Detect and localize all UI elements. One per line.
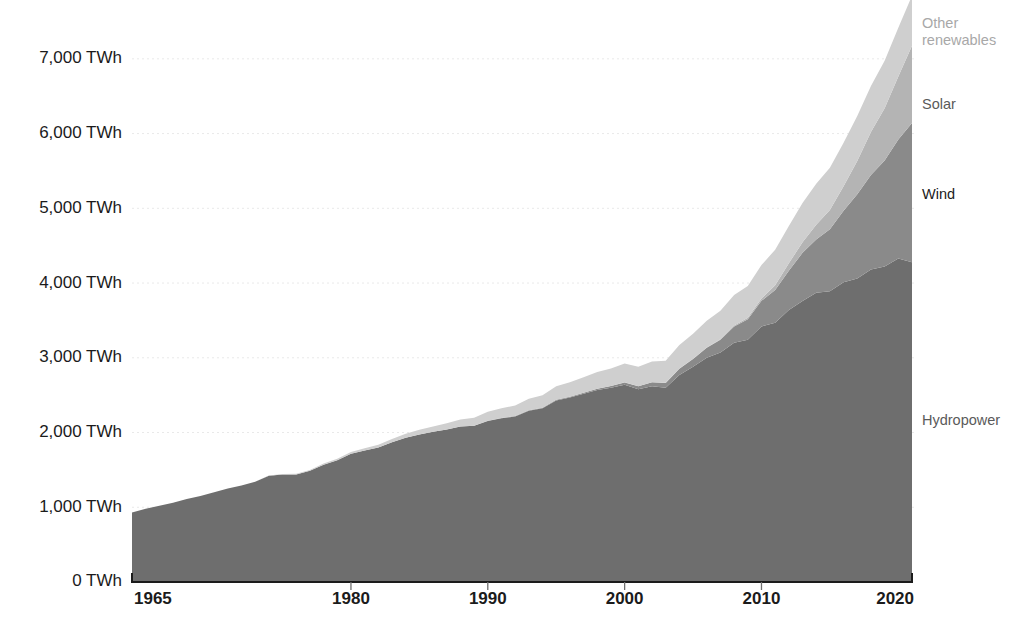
y-axis-tick-label: 4,000 TWh [39,273,122,292]
x-axis-tick-label: 1980 [332,589,370,608]
series-label-solar: Solar [922,96,956,112]
y-axis-tick-label: 0 TWh [72,571,122,590]
x-axis-tick-label: 2020 [876,589,914,608]
x-tick-marks-group [351,582,762,590]
series-label-other-renewables: Otherrenewables [922,15,996,48]
y-axis-tick-label: 7,000 TWh [39,48,122,67]
x-axis-tick-label: 2010 [743,589,781,608]
area-series-hydropower [132,258,912,582]
area-series-group [132,0,912,582]
y-axis-tick-label: 3,000 TWh [39,347,122,366]
y-axis-tick-label: 2,000 TWh [39,422,122,441]
x-axis-tick-label: 2000 [606,589,644,608]
x-axis-tick-label: 1990 [469,589,507,608]
series-label-wind: Wind [922,186,955,202]
y-axis-labels-group: 0 TWh1,000 TWh2,000 TWh3,000 TWh4,000 TW… [39,48,122,590]
y-axis-tick-label: 6,000 TWh [39,123,122,142]
series-label-hydropower: Hydropower [922,412,1000,428]
chart-container: 0 TWh1,000 TWh2,000 TWh3,000 TWh4,000 TW… [0,0,1035,644]
series-inline-labels-group: OtherrenewablesSolarWindHydropower [922,15,1000,428]
y-axis-tick-label: 1,000 TWh [39,497,122,516]
stacked-area-chart: 0 TWh1,000 TWh2,000 TWh3,000 TWh4,000 TW… [0,0,1035,644]
y-axis-tick-label: 5,000 TWh [39,198,122,217]
x-axis-labels-group: 196519801990200020102020 [134,589,914,608]
x-axis-tick-label: 1965 [134,589,172,608]
